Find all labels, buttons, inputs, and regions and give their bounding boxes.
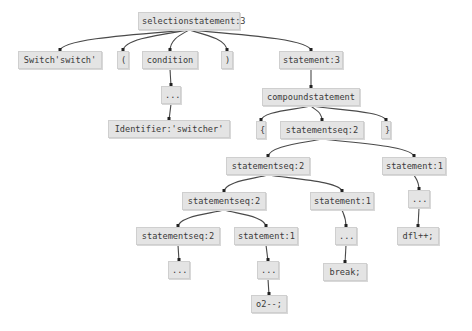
tree-node: }: [381, 121, 391, 139]
tree-node: statementseq:2: [280, 121, 364, 139]
tree-node: ...: [335, 227, 357, 245]
tree-node: statement:3: [279, 51, 343, 69]
tree-node: statementseq:2: [136, 227, 220, 245]
tree-node: condition: [142, 51, 198, 69]
tree-node: ...: [257, 261, 279, 279]
tree-node: (: [117, 51, 129, 69]
tree-edge: [322, 139, 414, 157]
tree-node: statement:1: [382, 157, 446, 175]
tree-edge: [268, 139, 322, 157]
tree-node: ...: [161, 86, 181, 104]
tree-node: Switch'switch': [18, 51, 102, 69]
tree-node: statementseq:2: [226, 157, 310, 175]
tree-node: dfl++;: [397, 227, 439, 245]
tree-edge: [189, 30, 311, 51]
tree-node: o2--;: [251, 295, 287, 313]
tree-node: Identifier:'switcher': [108, 120, 230, 138]
tree-node: compoundstatement: [262, 88, 360, 106]
tree-node: selectionstatement:3: [138, 12, 240, 30]
tree-edge: [178, 210, 224, 227]
tree-edge: [268, 175, 342, 192]
tree-node: ...: [408, 190, 430, 208]
tree-node: statementseq:2: [182, 192, 266, 210]
tree-node: {: [256, 121, 266, 139]
tree-node: ...: [168, 261, 190, 279]
tree-node: ): [221, 51, 233, 69]
tree-node: break;: [323, 263, 367, 281]
tree-node: statement:1: [234, 227, 298, 245]
tree-edge: [224, 175, 268, 192]
tree-edge: [261, 106, 311, 121]
tree-node: statement:1: [310, 192, 374, 210]
tree-edge: [311, 106, 322, 121]
tree-edge: [224, 210, 266, 227]
